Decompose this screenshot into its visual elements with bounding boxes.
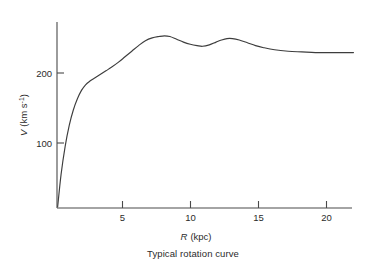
rotation-curve-chart: 200 100 5 10 15 20 R(kpc) V(km s-1) (0, 0, 386, 270)
y-axis-title: V(km s-1) (18, 94, 30, 136)
figure-caption: Typical rotation curve (0, 248, 386, 259)
x-axis-title-symbol: R (181, 231, 188, 242)
x-tick-label-10: 10 (185, 212, 196, 223)
rotation-curve-line (58, 36, 354, 207)
y-axis-title-unit-close: ) (18, 94, 29, 97)
y-tick-label-200: 200 (36, 68, 52, 79)
x-tick-label-20: 20 (321, 212, 332, 223)
figure-container: 200 100 5 10 15 20 R(kpc) V(km s-1) Typi… (0, 0, 386, 270)
x-tick-label-5: 5 (120, 212, 125, 223)
x-axis-title: R(kpc) (181, 231, 212, 242)
x-tick-label-15: 15 (253, 212, 264, 223)
y-axis-title-unit: (km s (18, 103, 29, 126)
y-tick-label-100: 100 (36, 138, 52, 149)
y-axis-title-symbol: V (18, 128, 29, 136)
x-axis-title-unit: (kpc) (190, 231, 211, 242)
